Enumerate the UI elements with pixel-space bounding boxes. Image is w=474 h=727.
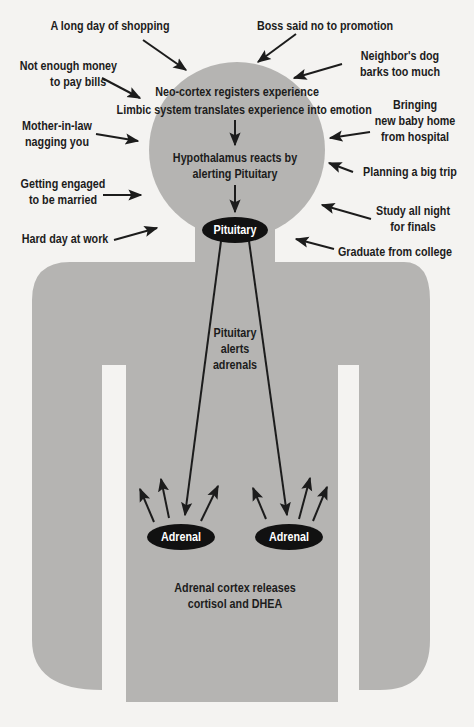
stressor-promotion: Boss said no to promotion	[252, 18, 398, 34]
stressor-text: Neighbor's dog	[353, 48, 448, 64]
stressor-text: for finals	[366, 219, 461, 235]
right-adrenal-label: Adrenal	[259, 529, 319, 545]
stressor-text: Graduate from college	[331, 244, 460, 260]
arrow-work	[114, 228, 157, 240]
stressor-text: Hard day at work	[18, 231, 113, 247]
stressor-text: Study all night	[366, 203, 461, 219]
stressor-text: Getting engaged	[16, 176, 111, 192]
pituitary-label: Pituitary	[201, 222, 270, 238]
arrow-baby	[330, 132, 370, 138]
stressor-mother-in-law: Mother-in-law nagging you	[18, 118, 95, 150]
arrow-graduate	[296, 239, 334, 249]
pituitary-alert-line: Pituitary	[201, 325, 270, 341]
stressor-work: Hard day at work	[18, 231, 113, 247]
pituitary-alert-line: alerts	[201, 341, 270, 357]
limbic-system-text: Limbic system translates experience into…	[117, 102, 358, 118]
stressor-text: new baby home	[368, 113, 463, 129]
arrow-finals	[322, 205, 371, 219]
stressor-text: barks too much	[353, 64, 448, 80]
arrow-promotion	[258, 34, 296, 62]
release-line: cortisol and DHEA	[166, 596, 304, 612]
stressor-text: A long day of shopping	[50, 18, 170, 34]
arrow-dog	[294, 64, 342, 78]
stressor-text: Mother-in-law	[18, 118, 95, 134]
stressor-trip: Planning a big trip	[354, 164, 466, 180]
hypothalamus-text: Hypothalamus reacts by alerting Pituitar…	[171, 150, 300, 182]
stressor-text: nagging you	[18, 134, 95, 150]
hypothalamus-line: alerting Pituitary	[171, 166, 300, 182]
stressor-bills: Not enough money to pay bills	[20, 58, 115, 90]
stressor-text: to be married	[16, 192, 111, 208]
pituitary-alert-line: adrenals	[201, 357, 270, 373]
stressor-baby: Bringing new baby home from hospital	[368, 97, 463, 145]
pituitary-alerts-text: Pituitary alerts adrenals	[201, 325, 270, 373]
adrenal-release-text: Adrenal cortex releases cortisol and DHE…	[166, 580, 304, 612]
left-adrenal-label: Adrenal	[151, 529, 211, 545]
stressor-text: Bringing	[368, 97, 463, 113]
stressor-dog: Neighbor's dog barks too much	[353, 48, 448, 80]
stressor-engaged: Getting engaged to be married	[16, 176, 111, 208]
stressor-text: Boss said no to promotion	[252, 18, 398, 34]
stressor-text: from hospital	[368, 129, 463, 145]
neo-cortex-text: Neo-cortex registers experience	[151, 84, 323, 100]
arrow-shopping	[143, 40, 186, 70]
stressor-text: Not enough money	[20, 58, 115, 74]
stressor-shopping: A long day of shopping	[50, 18, 170, 34]
stressor-finals: Study all night for finals	[366, 203, 461, 235]
hypothalamus-line: Hypothalamus reacts by	[171, 150, 300, 166]
release-line: Adrenal cortex releases	[166, 580, 304, 596]
stressor-text: to pay bills	[20, 74, 115, 90]
arrow-mother-in-law	[96, 134, 138, 141]
stressor-graduate: Graduate from college	[331, 244, 460, 260]
arrow-trip	[329, 163, 353, 172]
stressor-text: Planning a big trip	[354, 164, 466, 180]
